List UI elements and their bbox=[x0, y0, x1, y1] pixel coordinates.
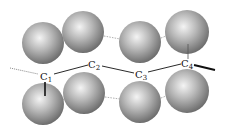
sphere bbox=[119, 81, 161, 123]
sphere bbox=[119, 21, 161, 63]
bond-c4-end bbox=[194, 65, 215, 70]
atom-label-c3: C3 bbox=[135, 69, 147, 82]
sphere bbox=[63, 72, 105, 114]
sphere bbox=[22, 83, 64, 125]
top-sphere-row bbox=[22, 10, 209, 64]
dotted-chain-start bbox=[10, 68, 38, 74]
sphere bbox=[22, 22, 64, 64]
bond-c3-c4 bbox=[148, 64, 181, 72]
carbon-chain-diagram: C1 C2 C3 C4 bbox=[0, 0, 230, 133]
bond-c2-c3 bbox=[102, 66, 134, 73]
sphere bbox=[165, 69, 209, 113]
atom-label-c2: C2 bbox=[88, 59, 100, 72]
sphere bbox=[62, 11, 104, 53]
atom-label-c1: C1 bbox=[40, 71, 52, 84]
sphere bbox=[165, 10, 209, 54]
